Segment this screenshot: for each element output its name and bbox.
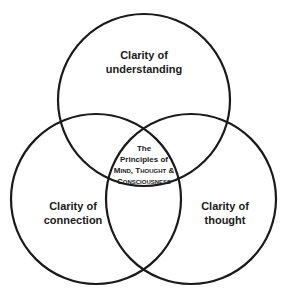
center-line1: The	[94, 143, 194, 154]
label-thought-line2: thought	[180, 213, 270, 227]
center-line3: Mind, Thought &	[94, 165, 194, 176]
label-understanding: Clarity of understanding	[94, 48, 194, 76]
label-thought-line1: Clarity of	[180, 199, 270, 213]
label-understanding-line2: understanding	[94, 62, 194, 76]
label-understanding-line1: Clarity of	[94, 48, 194, 62]
center-label: The Principles of Mind, Thought & Consci…	[94, 143, 194, 187]
center-line2: Principles of	[94, 154, 194, 165]
label-connection-line2: connection	[28, 213, 118, 227]
label-connection: Clarity of connection	[28, 199, 118, 227]
label-thought: Clarity of thought	[180, 199, 270, 227]
label-connection-line1: Clarity of	[28, 199, 118, 213]
center-line4: Consciousness	[94, 176, 194, 187]
